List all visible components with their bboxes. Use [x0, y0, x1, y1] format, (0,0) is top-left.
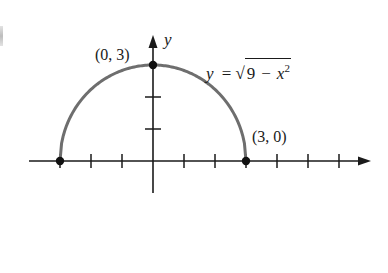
radical-sign-icon: √	[235, 64, 244, 83]
point-label-top: (0, 3)	[95, 46, 130, 64]
radicand-constant: 9	[247, 64, 256, 83]
equation-lhs: y	[206, 64, 214, 83]
data-point-marker	[149, 61, 157, 69]
plot-area	[0, 0, 388, 273]
equation-equals: =	[222, 64, 232, 83]
equation-label: y =√9−x2	[206, 58, 291, 84]
tick-marks	[60, 97, 339, 168]
data-point-marker	[242, 157, 250, 165]
radicand: 9−x2	[245, 58, 291, 83]
y-axis-label: y	[164, 30, 172, 50]
data-point-marker	[56, 157, 64, 165]
y-axis-arrow-icon	[149, 35, 158, 48]
radicand-minus: −	[261, 64, 271, 83]
point-label-right: (3, 0)	[252, 128, 287, 146]
axes	[29, 35, 371, 193]
chart-figure: y (0, 3) (3, 0) y =√9−x2	[0, 0, 388, 273]
x-axis-arrow-icon	[358, 157, 371, 166]
radicand-exponent: 2	[284, 62, 290, 74]
